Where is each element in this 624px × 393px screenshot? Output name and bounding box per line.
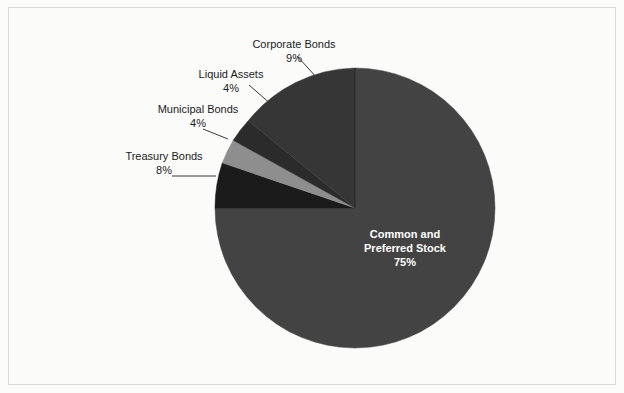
callout-percent-corporate-bonds: 9%: [286, 52, 302, 64]
callout-label-municipal-bonds: Municipal Bonds: [158, 103, 239, 115]
leader-line-municipal-bonds: [203, 129, 228, 139]
inner-label-line2: Preferred Stock: [364, 242, 447, 254]
inner-label-line1: Common and: [370, 228, 440, 240]
callout-percent-treasury-bonds: 8%: [156, 164, 172, 176]
pie-chart-svg: Corporate Bonds 9% Liquid Assets 4% Muni…: [0, 0, 624, 393]
pie-chart-figure: Corporate Bonds 9% Liquid Assets 4% Muni…: [0, 0, 624, 393]
callout-percent-liquid-assets: 4%: [223, 82, 239, 94]
inner-label-line3: 75%: [394, 256, 416, 268]
leader-line-liquid-assets: [249, 85, 272, 105]
callout-label-corporate-bonds: Corporate Bonds: [252, 38, 336, 50]
callout-label-treasury-bonds: Treasury Bonds: [125, 150, 203, 162]
callout-percent-municipal-bonds: 4%: [190, 117, 206, 129]
callout-label-liquid-assets: Liquid Assets: [199, 68, 264, 80]
